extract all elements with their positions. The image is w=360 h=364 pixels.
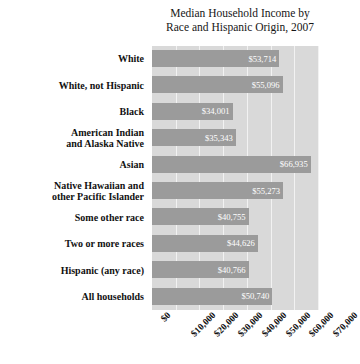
bar-row: $55,273 bbox=[152, 178, 318, 204]
x-axis-tick-label: $40,000 bbox=[260, 310, 289, 339]
x-axis-tick-label: $30,000 bbox=[236, 310, 265, 339]
bar: $44,626 bbox=[152, 235, 258, 252]
bar-value-label: $55,096 bbox=[252, 80, 283, 90]
bar-row: $44,626 bbox=[152, 231, 318, 257]
bar-value-label: $40,755 bbox=[218, 212, 249, 222]
bar-value-label: $66,935 bbox=[280, 159, 311, 169]
bars-layer: $53,714$55,096$34,001$35,343$66,935$55,2… bbox=[152, 46, 318, 310]
category-label: All households bbox=[0, 291, 144, 303]
category-label: Black bbox=[0, 106, 144, 118]
bar-value-label: $40,766 bbox=[218, 265, 249, 275]
bar-row: $66,935 bbox=[152, 152, 318, 178]
category-label-line: White, not Hispanic bbox=[0, 80, 144, 92]
bar: $55,096 bbox=[152, 76, 283, 93]
category-label-line: Hispanic (any race) bbox=[0, 265, 144, 277]
category-label: Hispanic (any race) bbox=[0, 265, 144, 277]
bar: $34,001 bbox=[152, 103, 233, 120]
category-label: White bbox=[0, 53, 144, 65]
category-axis-labels: WhiteWhite, not HispanicBlackAmerican In… bbox=[0, 46, 148, 310]
category-label: White, not Hispanic bbox=[0, 80, 144, 92]
bar: $40,766 bbox=[152, 261, 249, 278]
category-label: Native Hawaiian andother Pacific Islande… bbox=[0, 180, 144, 203]
chart-title: Median Household Income by Race and Hisp… bbox=[152, 6, 328, 34]
bar-row: $40,766 bbox=[152, 257, 318, 283]
plot-area: $53,714$55,096$34,001$35,343$66,935$55,2… bbox=[152, 46, 318, 310]
bar: $40,755 bbox=[152, 208, 249, 225]
bar-value-label: $55,273 bbox=[252, 186, 283, 196]
category-label-line: All households bbox=[0, 291, 144, 303]
bar-row: $50,740 bbox=[152, 284, 318, 310]
bar-value-label: $34,001 bbox=[202, 106, 233, 116]
x-axis-tick-label: $70,000 bbox=[331, 310, 360, 339]
category-label-line: Asian bbox=[0, 159, 144, 171]
bar-row: $55,096 bbox=[152, 72, 318, 98]
category-label-line: Some other race bbox=[0, 212, 144, 224]
x-axis-tick-labels: $0$10,000$20,000$30,000$40,000$50,000$60… bbox=[0, 310, 334, 364]
x-axis-tick-label: $60,000 bbox=[307, 310, 336, 339]
bar: $35,343 bbox=[152, 129, 236, 146]
bar-value-label: $53,714 bbox=[248, 54, 279, 64]
bar: $55,273 bbox=[152, 182, 283, 199]
gridline bbox=[318, 46, 319, 310]
bar-row: $35,343 bbox=[152, 125, 318, 151]
x-axis-tick-label: $10,000 bbox=[189, 310, 218, 339]
category-label: Asian bbox=[0, 159, 144, 171]
category-label-line: other Pacific Islander bbox=[0, 191, 144, 203]
category-label: Two or more races bbox=[0, 238, 144, 250]
x-axis-tick-label: $20,000 bbox=[212, 310, 241, 339]
category-label-line: White bbox=[0, 53, 144, 65]
bar: $53,714 bbox=[152, 50, 279, 67]
category-label: Some other race bbox=[0, 212, 144, 224]
category-label-line: Two or more races bbox=[0, 238, 144, 250]
chart-title-line-2: Race and Hispanic Origin, 2007 bbox=[152, 20, 328, 34]
bar: $50,740 bbox=[152, 288, 272, 305]
category-label-line: and Alaska Native bbox=[0, 138, 144, 150]
bar-row: $53,714 bbox=[152, 46, 318, 72]
x-axis-tick-label: $50,000 bbox=[283, 310, 312, 339]
bar: $66,935 bbox=[152, 156, 311, 173]
bar-value-label: $35,343 bbox=[205, 133, 236, 143]
category-label-line: Native Hawaiian and bbox=[0, 180, 144, 192]
chart-title-line-1: Median Household Income by bbox=[152, 6, 328, 20]
bar-value-label: $50,740 bbox=[241, 291, 272, 301]
category-label-line: American Indian bbox=[0, 127, 144, 139]
bar-value-label: $44,626 bbox=[227, 238, 258, 248]
x-axis-tick-label: $0 bbox=[159, 310, 173, 324]
category-label-line: Black bbox=[0, 106, 144, 118]
bar-row: $34,001 bbox=[152, 99, 318, 125]
category-label: American Indianand Alaska Native bbox=[0, 127, 144, 150]
bar-row: $40,755 bbox=[152, 204, 318, 230]
